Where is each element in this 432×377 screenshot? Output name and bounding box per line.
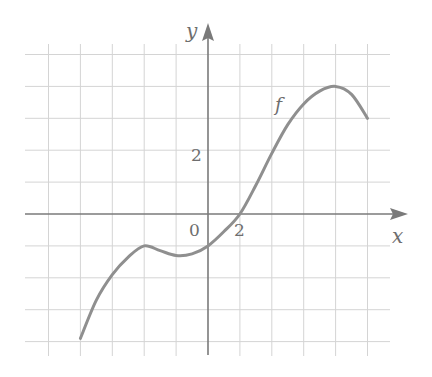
curve-label-f: f	[273, 93, 285, 115]
x-axis-label: x	[392, 224, 403, 248]
x-tick-label-2: 2	[234, 220, 245, 240]
function-graph: y x 0 2 2 f	[0, 0, 432, 377]
curve-f	[80, 86, 367, 338]
y-tick-label-2: 2	[191, 145, 202, 165]
y-axis-label: y	[185, 19, 198, 43]
origin-label: 0	[189, 220, 200, 240]
